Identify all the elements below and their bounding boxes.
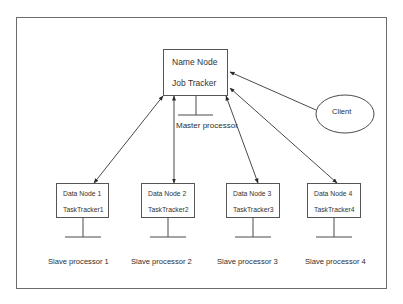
- client-label: Client: [332, 107, 351, 116]
- task-tracker-label: TaskTracker4: [314, 206, 360, 213]
- data-node-4-box: Data Node 4 TaskTracker4: [307, 183, 361, 218]
- slave-processor-2-label: Slave processor 2: [131, 257, 192, 266]
- data-node-label: Data Node 1: [63, 190, 108, 197]
- task-tracker-label: TaskTracker1: [63, 206, 108, 213]
- arrow-master-to-data_node_4: [230, 88, 337, 183]
- data-node-1-box: Data Node 1 TaskTracker1: [56, 183, 109, 218]
- task-tracker-label: TaskTracker3: [233, 206, 279, 213]
- name-node-label: Name Node: [172, 57, 227, 67]
- master-processor-label: Master processor: [176, 121, 238, 130]
- slave-processor-4-label: Slave processor 4: [305, 257, 366, 266]
- data-node-label: Data Node 4: [314, 190, 360, 197]
- data-node-3-box: Data Node 3 TaskTracker3: [226, 183, 280, 218]
- hadoop-architecture-diagram: Name Node Job Tracker Master processor C…: [0, 0, 403, 304]
- slave-processor-1-label: Slave processor 1: [48, 257, 109, 266]
- data-node-2-box: Data Node 2 TaskTracker2: [141, 183, 195, 218]
- data-node-label: Data Node 3: [233, 190, 279, 197]
- slave-processor-3-label: Slave processor 3: [217, 257, 278, 266]
- name-node-box: Name Node Job Tracker: [163, 49, 228, 96]
- data-node-label: Data Node 2: [148, 190, 194, 197]
- task-tracker-label: TaskTracker2: [148, 206, 194, 213]
- arrow-master-to-data_node_1: [94, 96, 163, 183]
- arrow-client-to-master: [230, 72, 316, 110]
- job-tracker-label: Job Tracker: [172, 78, 227, 88]
